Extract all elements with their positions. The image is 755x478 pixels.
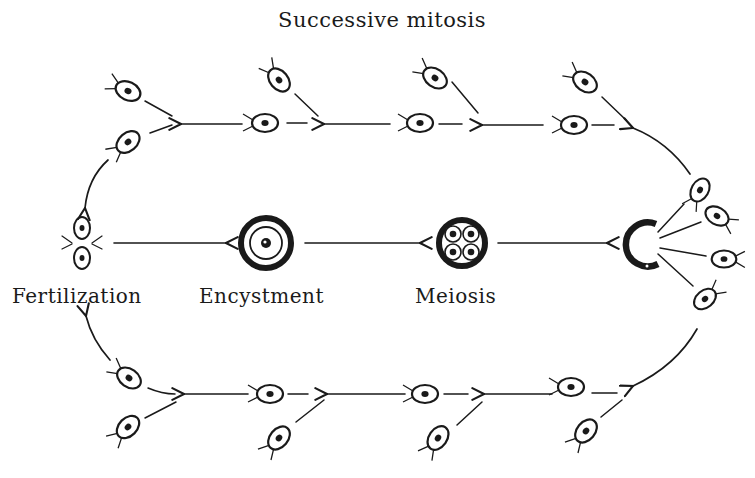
biflagellate-cell-icon [105, 127, 143, 163]
life-cycle-diagram [0, 0, 755, 478]
biflagellate-cell-icon [258, 57, 294, 95]
arrow-curve-bottom-right [633, 329, 697, 386]
bottom-mitosis-branch [86, 316, 697, 461]
biflagellate-cell-icon [258, 422, 294, 460]
zygote-pair-icon [62, 217, 102, 269]
arrow-curve-bottom-left [86, 316, 110, 360]
biflagellate-cell-icon [418, 422, 453, 461]
stage-label-encystment: Encystment [199, 284, 324, 308]
biflagellate-cell-icon [562, 62, 601, 97]
ruptured-cyst-icon [626, 222, 658, 267]
biflagellate-cell-icon [552, 116, 587, 134]
biflagellate-cell-icon [248, 385, 283, 403]
meiotic-tetrad-icon [439, 220, 485, 266]
arrow-curve-top-left [85, 160, 108, 208]
diagram-title: Successive mitosis [278, 8, 486, 32]
stage-label-fertilization: Fertilization [12, 284, 142, 308]
arrow-curve-top-right [633, 128, 690, 174]
biflagellate-cell-icon [106, 411, 143, 448]
biflagellate-cell-icon [565, 415, 601, 453]
biflagellate-cell-icon [104, 74, 143, 105]
biflagellate-cell-icon [712, 250, 745, 267]
cyst-icon [241, 218, 291, 268]
stage-label-meiosis: Meiosis [415, 284, 496, 308]
biflagellate-cell-icon [398, 114, 433, 132]
biflagellate-cell-icon [702, 202, 739, 233]
main-flow [62, 175, 745, 313]
biflagellate-cell-icon [412, 58, 451, 93]
biflagellate-cell-icon [106, 358, 145, 393]
biflagellate-cell-icon [549, 378, 584, 396]
biflagellate-cell-icon [243, 114, 278, 132]
biflagellate-cell-icon [690, 279, 726, 313]
top-mitosis-branch [85, 57, 690, 208]
biflagellate-cell-icon [403, 385, 438, 403]
